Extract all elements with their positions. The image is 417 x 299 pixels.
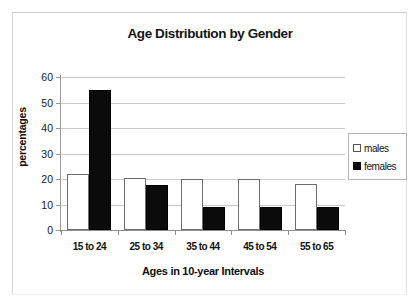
chart-title: Age Distribution by Gender (60, 26, 360, 41)
bar-group (288, 77, 345, 230)
bar-group (118, 77, 175, 230)
chart-page: Age Distribution by Gender percentages 0… (0, 0, 417, 299)
bar-males-15-to-24 (67, 174, 89, 230)
y-axis-tick (56, 230, 60, 231)
legend-swatch-males-icon (353, 144, 361, 152)
x-axis-tick (61, 231, 62, 235)
y-axis-tick-label: 0 (33, 225, 53, 235)
plot-area (61, 77, 345, 230)
bar-group (175, 77, 232, 230)
x-axis-tick-label: 15 to 24 (61, 241, 118, 252)
y-axis-title: percentages (16, 97, 28, 177)
y-axis-tick (56, 77, 60, 78)
legend-item-males: males (353, 139, 406, 157)
x-axis-tick-label: 45 to 54 (231, 241, 288, 252)
y-axis-tick-label: 50 (33, 98, 53, 108)
bar-females-15-to-24 (89, 90, 111, 230)
legend-label: males (364, 143, 389, 154)
y-axis-tick-label: 10 (33, 200, 53, 210)
legend-item-females: females (353, 157, 406, 175)
bar-group (61, 77, 118, 230)
y-axis-tick (56, 179, 60, 180)
x-axis-line (60, 230, 346, 231)
x-axis-tick-label: 55 to 65 (288, 241, 345, 252)
bar-females-45-to-54 (260, 207, 282, 230)
x-axis-tick-label: 25 to 34 (118, 241, 175, 252)
x-axis-tick (175, 231, 176, 235)
y-axis-tick-label: 60 (33, 72, 53, 82)
x-axis-tick-label: 35 to 44 (175, 241, 232, 252)
y-axis-tick (56, 103, 60, 104)
x-axis-tick (345, 231, 346, 235)
y-axis-tick (56, 128, 60, 129)
legend-swatch-females-icon (353, 162, 361, 170)
y-axis-tick-label: 30 (33, 149, 53, 159)
bar-females-25-to-34 (146, 185, 168, 230)
y-axis-tick-labels: 0102030405060 (31, 0, 53, 299)
y-axis-tick-label: 20 (33, 174, 53, 184)
legend-label: females (364, 161, 396, 172)
bar-males-25-to-34 (124, 178, 146, 230)
legend: malesfemales (348, 133, 407, 180)
y-axis-tick-label: 40 (33, 123, 53, 133)
y-axis-tick (56, 205, 60, 206)
bar-males-45-to-54 (238, 179, 260, 230)
x-axis-tick (288, 231, 289, 235)
bar-group (231, 77, 288, 230)
x-axis-title: Ages in 10-year Intervals (60, 265, 346, 277)
x-axis-tick (231, 231, 232, 235)
x-axis-tick (118, 231, 119, 235)
bar-females-35-to-44 (203, 207, 225, 230)
y-axis-tick (56, 154, 60, 155)
bar-males-35-to-44 (181, 179, 203, 230)
bar-males-55-to-65 (295, 184, 317, 230)
bar-females-55-to-65 (317, 207, 339, 230)
